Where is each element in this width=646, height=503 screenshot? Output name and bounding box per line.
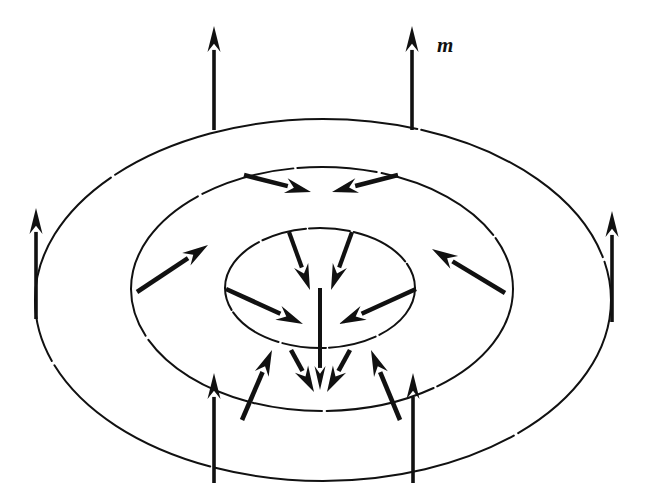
vector-shaft [338,350,350,371]
vector-arrow [339,289,416,324]
vector-arrow [432,249,505,293]
vector-arrowhead [406,26,419,52]
vector-arrowhead [182,245,208,266]
vector-arrowhead [208,373,221,399]
vector-shaft [380,372,400,420]
vector-arrowhead [606,211,619,237]
vector-arrow [331,232,352,290]
vector-arrow-group [30,26,619,483]
vector-shaft [137,258,188,292]
vector-shaft [355,175,398,186]
vector-arrowhead [327,366,346,392]
vector-arrow [242,350,272,420]
vector-arrowhead [332,178,359,193]
vector-arrow [606,211,619,322]
vector-arrow [291,350,314,392]
outer-ellipse-arc-bottom-left [35,300,323,481]
vector-arrowhead [30,208,43,234]
vector-shaft [226,289,280,314]
vector-arrowhead [315,366,326,390]
vector-shaft [339,232,352,268]
vector-shaft [289,232,302,268]
middle-ellipse-arc-top-right [322,167,513,289]
vector-arrow [289,232,310,290]
vector-arrow [327,350,350,392]
outer-ellipse-arc-top-left [35,119,323,300]
vector-arrowhead [284,178,311,193]
vector-arrow [371,350,400,420]
vector-arrow [244,175,311,193]
outer-ellipse-arc-bottom-right [323,300,611,481]
vector-arrow [208,26,221,130]
vector-arrow [315,288,326,390]
vector-shaft [244,175,288,186]
magnetization-label: m [437,33,453,57]
vector-field-diagram: m [0,0,646,503]
figure-root: m [0,0,646,503]
vector-shaft [242,372,263,420]
vector-arrowhead [208,26,221,52]
vector-arrow [137,245,208,292]
vector-arrow [407,373,420,483]
vector-arrow [406,26,419,130]
vector-shaft [291,350,303,371]
vector-arrowhead [407,373,420,399]
ring-group-outer [35,119,611,481]
vector-arrowhead [432,249,458,269]
vector-arrow [332,175,398,193]
vector-shaft [452,261,505,293]
vector-arrowhead [295,366,314,392]
